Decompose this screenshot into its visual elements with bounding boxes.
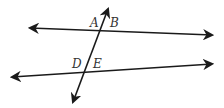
label-e: E <box>92 57 102 71</box>
diagram-canvas: A B D E <box>0 0 224 108</box>
label-d: D <box>71 57 82 71</box>
upper-line <box>30 28 212 35</box>
label-a: A <box>89 16 99 30</box>
lower-line <box>12 64 212 77</box>
label-b: B <box>109 16 119 30</box>
lines-diagram: A B D E <box>0 0 224 108</box>
